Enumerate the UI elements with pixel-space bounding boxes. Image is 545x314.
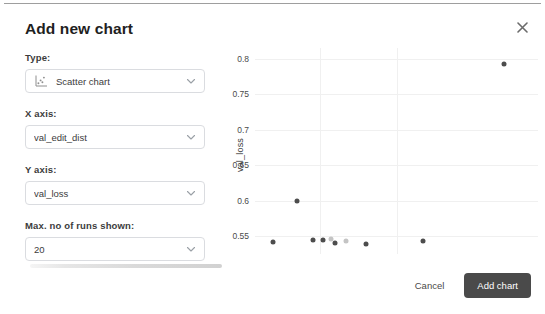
field-type: Type: Scatter chart — [25, 52, 205, 93]
scatter-point[interactable] — [502, 62, 507, 67]
scatter-point[interactable] — [295, 199, 300, 204]
close-icon[interactable] — [511, 16, 533, 38]
scatter-point[interactable] — [311, 238, 316, 243]
y-axis-tick-label: 0.65 — [232, 160, 249, 170]
y-axis-tick-label: 0.6 — [237, 196, 249, 206]
dialog-top-divider — [4, 3, 541, 4]
chevron-down-icon — [186, 76, 196, 86]
x-axis-value: val_edit_dist — [34, 132, 186, 143]
field-type-label: Type: — [25, 52, 205, 63]
chart-settings-form: Type: Scatter chart — [0, 48, 215, 270]
gridline-vertical — [397, 48, 398, 254]
chart-type-select[interactable]: Scatter chart — [25, 69, 205, 93]
gridline-vertical — [320, 48, 321, 254]
scatter-plot-area: 0.80.750.70.650.60.55 — [255, 48, 538, 254]
y-axis-tick-label: 0.75 — [232, 89, 249, 99]
x-axis-select[interactable]: val_edit_dist — [25, 125, 205, 149]
y-axis-tick-label: 0.7 — [237, 125, 249, 135]
y-axis-tick-label: 0.55 — [232, 231, 249, 241]
scatter-point[interactable] — [270, 239, 275, 244]
max-runs-select[interactable]: 20 — [25, 237, 205, 261]
chevron-down-icon — [186, 188, 196, 198]
scatter-point[interactable] — [333, 241, 338, 246]
field-y-axis-label: Y axis: — [25, 164, 205, 175]
scatter-point[interactable] — [344, 238, 349, 243]
add-new-chart-dialog: Add new chart Type: Scatter chart — [0, 0, 545, 314]
scatter-point[interactable] — [421, 239, 426, 244]
field-x-axis: X axis: val_edit_dist — [25, 108, 205, 149]
max-runs-value: 20 — [34, 244, 186, 255]
chart-preview: val_loss 0.80.750.70.650.60.55 — [215, 40, 545, 270]
y-axis-tick-label: 0.8 — [237, 54, 249, 64]
field-x-axis-label: X axis: — [25, 108, 205, 119]
scatter-point[interactable] — [364, 241, 369, 246]
field-max-runs-label: Max. no of runs shown: — [25, 220, 205, 231]
y-axis-value: val_loss — [34, 188, 186, 199]
add-chart-button[interactable]: Add chart — [464, 273, 531, 298]
scatter-chart-icon — [34, 74, 48, 88]
cancel-button[interactable]: Cancel — [405, 274, 455, 297]
page-title: Add new chart — [25, 20, 133, 38]
field-max-runs: Max. no of runs shown: 20 — [25, 220, 205, 261]
scatter-point[interactable] — [320, 237, 325, 242]
chevron-down-icon — [186, 244, 196, 254]
chart-type-value: Scatter chart — [56, 76, 186, 87]
chevron-down-icon — [186, 132, 196, 142]
dialog-footer: Cancel Add chart — [405, 273, 531, 298]
form-horizontal-scrollbar[interactable] — [30, 264, 222, 268]
y-axis-select[interactable]: val_loss — [25, 181, 205, 205]
field-y-axis: Y axis: val_loss — [25, 164, 205, 205]
